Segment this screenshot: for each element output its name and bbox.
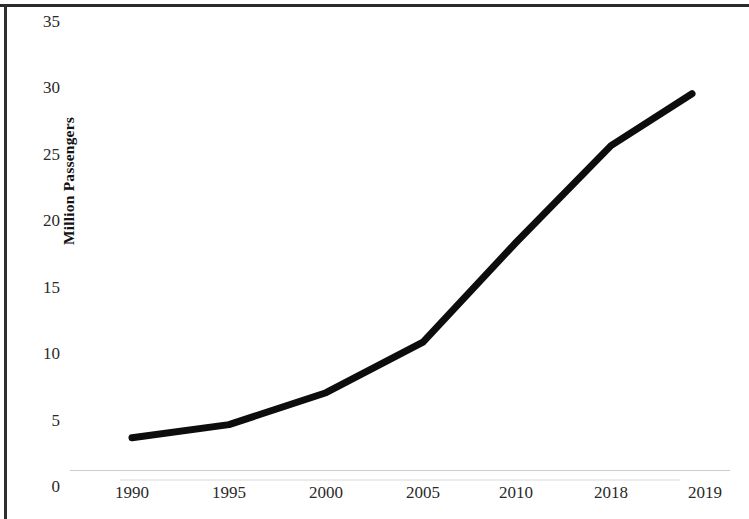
chart-figure: Million Passengers 35 30 25 20 15 10 5 0… xyxy=(0,0,749,519)
chart-plot-svg xyxy=(0,0,749,519)
passenger-trend-line xyxy=(132,94,692,438)
